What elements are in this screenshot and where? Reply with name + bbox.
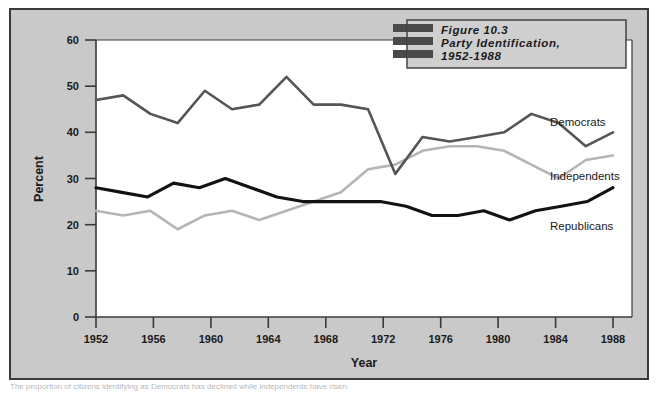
y-axis-title: Percent: [32, 155, 46, 202]
y-tick-20: 20: [67, 219, 96, 231]
figure-title-line-1: Figure 10.3: [441, 24, 508, 36]
x-axis-title: Year: [351, 356, 378, 370]
x-tick-label: 1968: [314, 333, 338, 345]
x-tick-label: 1964: [256, 333, 281, 345]
party-identification-line-chart: 60 50 40 30 20: [11, 10, 647, 378]
x-tick-label: 1972: [371, 333, 395, 345]
y-tick-label: 50: [67, 80, 79, 92]
x-tick-label: 1960: [199, 333, 223, 345]
y-tick-50: 50: [67, 80, 96, 92]
title-accent-bar-icon: [407, 37, 433, 45]
y-tick-label: 10: [67, 265, 79, 277]
x-tick-1972: 1972: [371, 317, 395, 345]
y-tick-label: 30: [67, 173, 79, 185]
y-tick-label: 60: [67, 34, 79, 46]
figure-title-block: Figure 10.3 Party Identification, 1952-1…: [393, 20, 626, 68]
y-tick-60: 60: [67, 34, 96, 46]
y-tick-30: 30: [67, 173, 96, 185]
x-tick-1964: 1964: [256, 317, 281, 345]
figure-title-line-2: Party Identification,: [441, 37, 560, 49]
y-axis-ticks: 60 50 40 30 20: [67, 34, 96, 323]
y-tick-label: 20: [67, 219, 79, 231]
x-tick-1956: 1956: [141, 317, 165, 345]
figure-caption: The proportion of citizens identifying a…: [10, 382, 650, 391]
title-accent-bar-icon: [407, 50, 433, 58]
y-tick-10: 10: [67, 265, 96, 277]
x-tick-1984: 1984: [543, 317, 568, 345]
x-tick-1976: 1976: [428, 317, 452, 345]
figure-container: 60 50 40 30 20: [0, 0, 659, 398]
y-tick-label: 40: [67, 126, 79, 138]
x-tick-label: 1980: [486, 333, 510, 345]
x-axis-ticks: 1952 1956 1960 1964 1968: [84, 317, 625, 345]
x-tick-label: 1956: [141, 333, 165, 345]
x-tick-1988: 1988: [601, 317, 625, 345]
series-label-independents: Independents: [550, 170, 620, 182]
x-tick-label: 1988: [601, 333, 625, 345]
y-tick-0: 0: [73, 311, 96, 323]
x-tick-1980: 1980: [486, 317, 510, 345]
series-label-democrats: Democrats: [550, 116, 606, 128]
x-tick-label: 1984: [543, 333, 568, 345]
y-tick-label: 0: [73, 311, 79, 323]
x-tick-1960: 1960: [199, 317, 223, 345]
x-tick-label: 1952: [84, 333, 108, 345]
x-tick-1968: 1968: [314, 317, 338, 345]
series-label-republicans: Republicans: [550, 220, 614, 232]
x-tick-1952: 1952: [84, 317, 108, 345]
title-accent-bar-icon: [407, 24, 433, 32]
figure-title-line-3: 1952-1988: [441, 50, 501, 62]
y-tick-40: 40: [67, 126, 96, 138]
x-tick-label: 1976: [428, 333, 452, 345]
figure-panel: 60 50 40 30 20: [9, 8, 649, 380]
